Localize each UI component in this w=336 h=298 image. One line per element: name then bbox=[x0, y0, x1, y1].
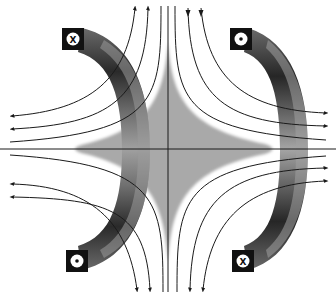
marker-top-left: X bbox=[62, 28, 84, 50]
marker-bottom-left bbox=[66, 250, 88, 272]
current-into-page-icon: X bbox=[240, 257, 247, 267]
quadrupole-field-diagram: X X bbox=[0, 0, 336, 298]
field-lines-top-right bbox=[188, 8, 326, 126]
field-line bbox=[188, 8, 326, 126]
arrow-down-icon bbox=[199, 10, 204, 17]
marker-top-right bbox=[230, 28, 252, 50]
current-into-page-icon: X bbox=[70, 35, 77, 45]
current-out-of-page-icon bbox=[75, 259, 79, 263]
current-out-of-page-icon bbox=[239, 37, 243, 41]
diagram-canvas: X X bbox=[0, 0, 336, 298]
arrow-down-icon bbox=[186, 10, 191, 17]
marker-bottom-right: X bbox=[232, 250, 254, 272]
arrowheads-top-right bbox=[186, 10, 204, 17]
